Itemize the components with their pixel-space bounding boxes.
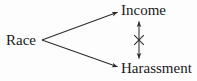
- edge-race-to-income: [42, 12, 118, 40]
- causal-diagram: Race Income Harassment: [0, 0, 197, 81]
- node-label-race: Race: [6, 33, 36, 48]
- edge-race-to-harassment: [42, 40, 118, 67]
- node-label-harassment: Harassment: [121, 61, 192, 76]
- node-label-income: Income: [121, 3, 166, 18]
